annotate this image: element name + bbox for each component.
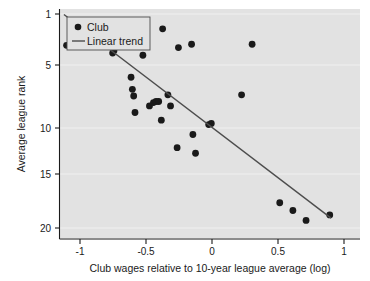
data-point	[139, 52, 146, 59]
y-tick-label-10: 10	[40, 123, 52, 134]
data-point	[192, 150, 199, 157]
x-tick-label-neg1: -1	[76, 246, 85, 257]
x-tick-label-0: 0	[209, 246, 215, 257]
y-tick-marks	[55, 14, 60, 228]
data-point	[174, 144, 181, 151]
data-point	[189, 131, 196, 138]
legend-marker-club	[75, 24, 82, 31]
data-point	[276, 199, 283, 206]
y-tick-label-5: 5	[45, 60, 51, 71]
data-point	[128, 74, 135, 81]
data-point	[175, 44, 182, 51]
data-point	[158, 117, 165, 124]
data-point	[159, 25, 166, 32]
chart-canvas: 1 5 10 15 20 -1 -0.5 0 0.5 1 Club wages …	[0, 0, 370, 281]
x-tick-marks	[80, 239, 344, 244]
x-tick-label-neg0p5: -0.5	[137, 246, 155, 257]
data-point	[167, 102, 174, 109]
x-axis-title: Club wages relative to 10-year league av…	[89, 262, 330, 274]
chart-legend: Club Linear trend	[67, 17, 150, 50]
scatter-chart-figure: 1 5 10 15 20 -1 -0.5 0 0.5 1 Club wages …	[0, 0, 370, 281]
x-tick-label-0p5: 0.5	[271, 246, 285, 257]
data-point	[249, 41, 256, 48]
data-point	[238, 91, 245, 98]
data-point	[188, 41, 195, 48]
legend-label-linear-trend: Linear trend	[87, 35, 143, 47]
x-tick-label-1: 1	[341, 246, 347, 257]
y-tick-label-1: 1	[45, 9, 51, 20]
y-axis-title: Average league rank	[15, 75, 27, 172]
y-tick-label-15: 15	[40, 169, 52, 180]
data-point	[129, 86, 136, 93]
data-point	[289, 207, 296, 214]
data-point	[132, 109, 139, 116]
y-tick-label-20: 20	[40, 223, 52, 234]
data-point	[130, 93, 137, 100]
data-point	[155, 98, 162, 105]
data-point	[303, 217, 310, 224]
legend-label-club: Club	[87, 21, 109, 33]
